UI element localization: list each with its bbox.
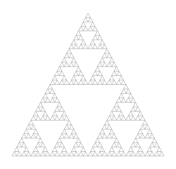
figure-canvas bbox=[0, 0, 176, 169]
sierpinski-triangle-figure bbox=[0, 0, 176, 169]
